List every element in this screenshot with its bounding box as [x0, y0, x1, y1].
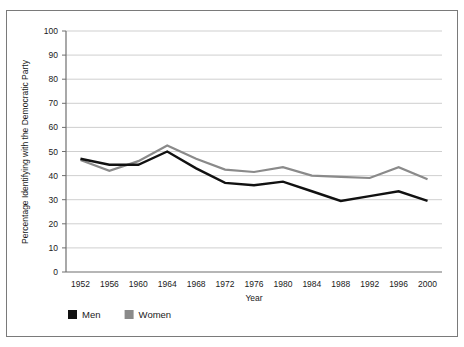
line-chart: 0102030405060708090100 19521956196019641…: [0, 0, 464, 347]
y-axis-tick-label: 70: [49, 98, 59, 108]
legend-swatch-women: [125, 310, 134, 319]
y-axis-tick-label: 20: [49, 219, 59, 229]
chart-legend: MenWomen: [68, 309, 171, 320]
x-axis-tick-label: 1972: [216, 279, 235, 289]
series-line-women: [80, 145, 427, 179]
x-axis-tick-label: 1968: [187, 279, 206, 289]
x-axis-tick-label: 1976: [245, 279, 264, 289]
x-axis-title: Year: [245, 293, 262, 303]
gridlines: [66, 31, 442, 248]
x-axis-tick-label: 2000: [418, 279, 437, 289]
legend-label-women: Women: [139, 309, 172, 320]
x-axis-tick-labels: 1952195619601964196819721976198019841988…: [71, 279, 437, 289]
x-axis-tick-label: 1988: [331, 279, 350, 289]
x-axis-tick-label: 1956: [100, 279, 119, 289]
x-axis-tick-label: 1984: [302, 279, 321, 289]
y-axis-tick-label: 0: [53, 267, 58, 277]
x-axis-tick-label: 1996: [389, 279, 408, 289]
chart-figure: 0102030405060708090100 19521956196019641…: [0, 0, 464, 347]
y-axis-tick-label: 100: [44, 26, 58, 36]
y-axis-tick-labels: 0102030405060708090100: [44, 26, 58, 277]
y-axis-title: Percentage Identifying with the Democrat…: [20, 59, 30, 244]
y-axis-tick-label: 60: [49, 122, 59, 132]
x-axis-tick-label: 1992: [360, 279, 379, 289]
legend-label-men: Men: [82, 309, 100, 320]
y-axis-tick-label: 90: [49, 50, 59, 60]
x-axis-tick-label: 1960: [129, 279, 148, 289]
data-series-group: [80, 145, 427, 200]
y-axis-tick-label: 40: [49, 171, 59, 181]
x-axis-tick-label: 1980: [273, 279, 292, 289]
legend-swatch-men: [68, 310, 77, 319]
y-axis-tick-label: 50: [49, 147, 59, 157]
x-axis-tick-label: 1952: [71, 279, 90, 289]
x-axis-tick-label: 1964: [158, 279, 177, 289]
y-axis-tick-label: 30: [49, 195, 59, 205]
y-axis-tick-label: 10: [49, 243, 59, 253]
y-axis-tick-label: 80: [49, 74, 59, 84]
